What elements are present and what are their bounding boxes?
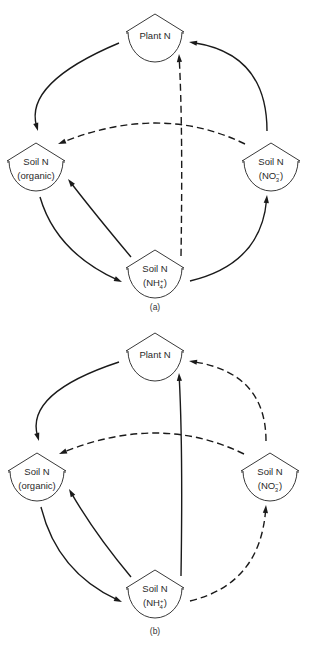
dashed-arrow-line xyxy=(194,362,266,441)
edge-plant-to-organic xyxy=(34,362,119,441)
solid-arrow-line xyxy=(40,197,117,280)
edge-ammonium-to-plant xyxy=(177,373,182,576)
dashed-arrow-line xyxy=(64,433,244,454)
node-label: Soil N xyxy=(23,156,48,167)
edge-nitrate-to-plant xyxy=(189,360,266,441)
node-outline xyxy=(126,250,184,298)
node-sublabel-end: ) xyxy=(164,597,167,608)
edge-nitrate-to-organic xyxy=(58,123,245,144)
arrowhead-icon xyxy=(114,596,122,602)
node-outline xyxy=(241,453,299,501)
node-label: Soil N xyxy=(257,466,282,477)
edges xyxy=(33,41,269,282)
dashed-arrow-line xyxy=(179,59,181,256)
solid-arrow-line xyxy=(194,43,267,131)
arrowhead-icon xyxy=(59,449,67,454)
node-plant: Plant N xyxy=(126,14,184,62)
solid-arrow-line xyxy=(41,507,117,600)
arrowhead-icon xyxy=(264,195,269,203)
panel-label: (b) xyxy=(150,626,161,636)
node-label: Plant N xyxy=(139,349,170,360)
node-nitrate: Soil N(NO−3) xyxy=(242,143,300,191)
edge-nitrate-to-organic xyxy=(59,433,244,454)
dashed-arrow-line xyxy=(190,510,266,601)
node-sublabel: (organic) xyxy=(18,480,56,491)
node-organic: Soil N(organic) xyxy=(7,143,65,191)
solid-arrow-line xyxy=(35,43,119,126)
nitrogen-cycle-figure: Plant NSoil N(organic)Soil N(NO−3)Soil N… xyxy=(0,0,312,651)
arrowhead-icon xyxy=(69,489,75,497)
arrowhead-icon xyxy=(177,54,182,62)
node-label: Plant N xyxy=(139,30,170,41)
arrowhead-icon xyxy=(263,505,268,513)
edge-ammonium-to-nitrate xyxy=(190,505,268,601)
edge-ammonium-to-organic xyxy=(68,179,131,257)
arrowhead-icon xyxy=(34,433,39,441)
arrowhead-icon xyxy=(189,360,197,365)
arrowhead-icon xyxy=(58,139,66,144)
nodes: Plant NSoil N(organic)Soil N(NO−3)Soil N… xyxy=(8,333,299,618)
edge-ammonium-to-plant xyxy=(177,54,182,256)
edge-ammonium-to-organic xyxy=(69,489,131,577)
node-sublabel-end: ) xyxy=(164,277,167,288)
arrowhead-icon xyxy=(189,41,197,46)
dashed-arrow-line xyxy=(63,123,245,144)
diagram-panel-a: Plant NSoil N(organic)Soil N(NO−3)Soil N… xyxy=(7,14,300,312)
edge-organic-to-ammonium xyxy=(41,507,122,602)
edges xyxy=(34,360,268,602)
nodes: Plant NSoil N(organic)Soil N(NO−3)Soil N… xyxy=(7,14,300,298)
solid-arrow-line xyxy=(36,362,119,436)
node-ammonium: Soil N(NH+4) xyxy=(126,570,184,618)
edge-plant-to-organic xyxy=(33,43,119,131)
edge-nitrate-to-plant xyxy=(189,41,267,131)
solid-arrow-line xyxy=(72,493,131,577)
node-plant: Plant N xyxy=(126,333,184,381)
node-outline xyxy=(126,570,184,618)
node-sublabel-end: ) xyxy=(279,480,282,491)
solid-arrow-line xyxy=(190,200,267,281)
edge-organic-to-ammonium xyxy=(40,197,122,282)
node-nitrate: Soil N(NO−3) xyxy=(241,453,299,501)
arrowhead-icon xyxy=(177,373,182,381)
solid-arrow-line xyxy=(71,183,131,257)
arrowhead-icon xyxy=(114,276,122,282)
node-ammonium: Soil N(NH+4) xyxy=(126,250,184,298)
node-outline xyxy=(242,143,300,191)
node-sublabel: (organic) xyxy=(17,170,55,181)
arrowhead-icon xyxy=(33,123,38,131)
node-label: Soil N xyxy=(24,466,49,477)
node-label: Soil N xyxy=(142,263,167,274)
diagram-panel-b: Plant NSoil N(organic)Soil N(NO−3)Soil N… xyxy=(8,333,299,636)
panel-label: (a) xyxy=(150,302,161,312)
node-label: Soil N xyxy=(142,583,167,594)
node-outline xyxy=(8,453,66,501)
node-organic: Soil N(organic) xyxy=(8,453,66,501)
solid-arrow-line xyxy=(179,378,181,576)
node-label: Soil N xyxy=(258,156,283,167)
node-sublabel-end: ) xyxy=(280,170,283,181)
edge-ammonium-to-nitrate xyxy=(190,195,269,281)
